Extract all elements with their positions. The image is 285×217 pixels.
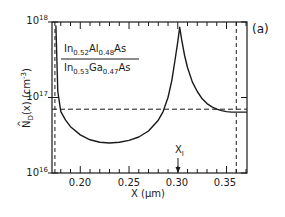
x-axis-label: X (μm) [131, 188, 165, 199]
material-top: In0.52Al0.48As [64, 43, 126, 57]
doping-curve [56, 26, 247, 144]
y-tick-label-1e16: 1016 [26, 166, 48, 178]
material-bottom: In0.53Ga0.47As [64, 62, 130, 76]
x-tick-label-0.30: 0.30 [166, 177, 188, 188]
xi-arrow-head-icon [176, 167, 181, 173]
y-tick-label-1e18: 1018 [26, 14, 48, 26]
material-legend: In0.52Al0.48As In0.53Ga0.47As [61, 43, 139, 76]
xi-label: XI [175, 144, 184, 158]
x-tick-label-0.35: 0.35 [214, 177, 236, 188]
reference-lines [52, 22, 247, 173]
y-axis-label-hat: ^ [17, 120, 26, 127]
x-tick-label-0.20: 0.20 [69, 177, 91, 188]
plot-frame [52, 22, 247, 173]
xi-annotation: XI [175, 144, 184, 173]
x-tick-label-0.25: 0.25 [118, 177, 140, 188]
panel-label: (a) [252, 22, 269, 36]
y-axis-ticks [48, 22, 247, 173]
doping-profile-chart: 1018 1017 1016 0.20 0.25 0.30 0.35 X (μm… [0, 0, 285, 217]
